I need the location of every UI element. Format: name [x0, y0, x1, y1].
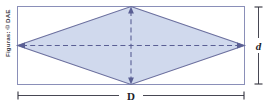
- rhombus-figure: Figuras: © DAE D d: [0, 0, 269, 105]
- minor-diagonal-label: d: [256, 40, 262, 52]
- figure-credit: Figuras: © DAE: [4, 9, 11, 57]
- major-diagonal-label: D: [127, 90, 135, 102]
- major-diagonal-arrow-right-icon: [237, 42, 245, 48]
- major-diagonal-arrow-left-icon: [18, 42, 26, 48]
- figure-canvas: Figuras: © DAE D d: [0, 0, 269, 105]
